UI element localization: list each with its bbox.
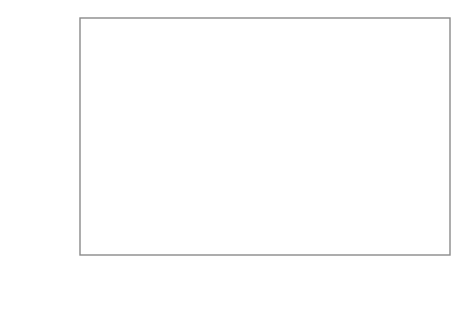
plot-canvas	[0, 0, 471, 324]
normal-probability-plot	[0, 0, 471, 324]
plot-frame	[80, 18, 450, 255]
